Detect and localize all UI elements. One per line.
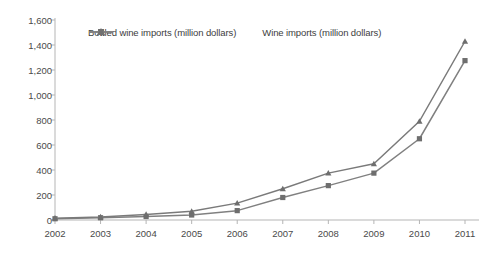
legend-label-wine-imports: Wine imports (million dollars) <box>262 27 381 38</box>
x-axis-tick-label: 2008 <box>318 228 339 239</box>
x-axis-tick-label: 2005 <box>181 228 202 239</box>
x-axis-tick-label: 2004 <box>136 228 157 239</box>
x-axis-tick-label: 2002 <box>44 228 65 239</box>
x-axis-tick-label: 2003 <box>90 228 111 239</box>
x-axis-tick-label: 2007 <box>272 228 293 239</box>
legend-entry-wine-imports[interactable]: Wine imports (million dollars) <box>262 27 381 38</box>
triangle-marker-icon <box>88 27 114 37</box>
x-axis-tick-label: 2011 <box>455 228 475 239</box>
x-axis-tick-label: 2009 <box>363 228 384 239</box>
x-axis-labels: 2002200320042005200620072008200920102011 <box>0 0 482 257</box>
line-chart: 02004006008001,0001,2001,4001,600 200220… <box>0 0 482 257</box>
x-axis-tick-label: 2010 <box>409 228 430 239</box>
chart-legend: Bottled wine imports (million dollars) W… <box>88 27 381 38</box>
x-axis-tick-label: 2006 <box>227 228 248 239</box>
